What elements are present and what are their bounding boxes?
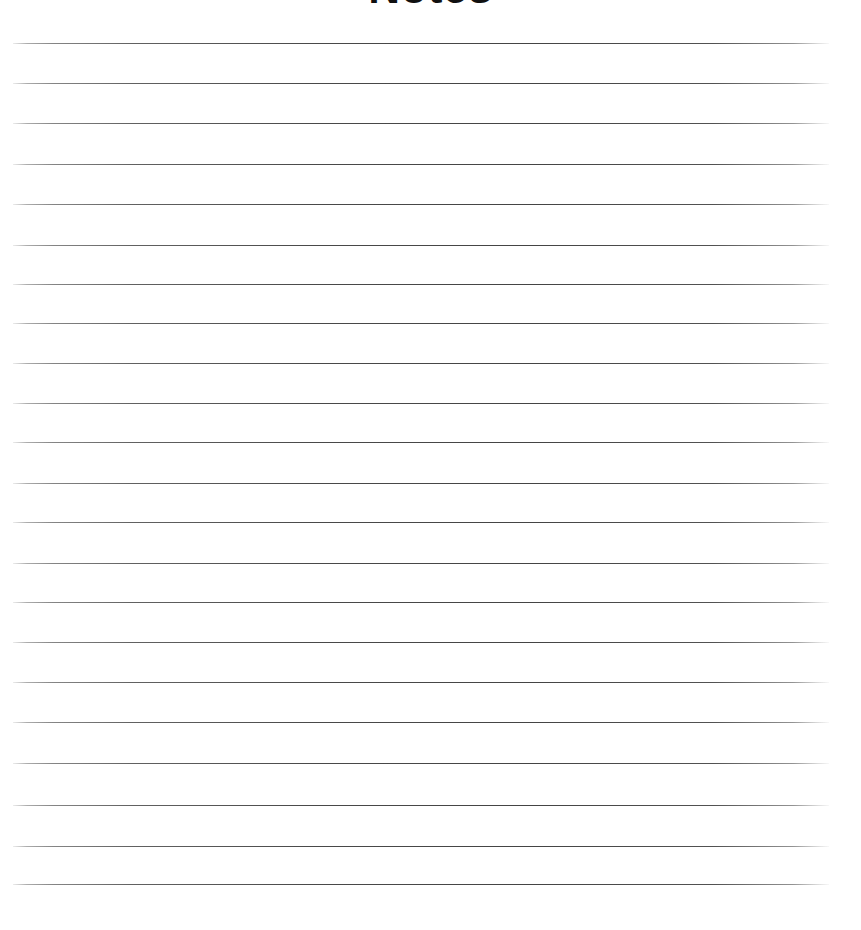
note-line[interactable]: [13, 204, 829, 205]
note-line[interactable]: [13, 403, 829, 404]
note-line[interactable]: [13, 43, 829, 44]
note-line[interactable]: [13, 682, 829, 683]
note-line[interactable]: [13, 442, 829, 443]
note-line[interactable]: [13, 884, 829, 885]
note-line[interactable]: [13, 83, 829, 84]
note-line[interactable]: [13, 164, 829, 165]
note-line[interactable]: [13, 563, 829, 564]
ruled-lines-area[interactable]: [0, 0, 861, 930]
note-line[interactable]: [13, 323, 829, 324]
note-line[interactable]: [13, 763, 829, 764]
note-line[interactable]: [13, 245, 829, 246]
note-line[interactable]: [13, 123, 829, 124]
note-line[interactable]: [13, 284, 829, 285]
note-line[interactable]: [13, 722, 829, 723]
note-line[interactable]: [13, 602, 829, 603]
notes-page: Notes: [0, 0, 861, 930]
note-line[interactable]: [13, 522, 829, 523]
note-line[interactable]: [13, 363, 829, 364]
note-line[interactable]: [13, 846, 829, 847]
note-line[interactable]: [13, 483, 829, 484]
note-line[interactable]: [13, 805, 829, 806]
note-line[interactable]: [13, 642, 829, 643]
